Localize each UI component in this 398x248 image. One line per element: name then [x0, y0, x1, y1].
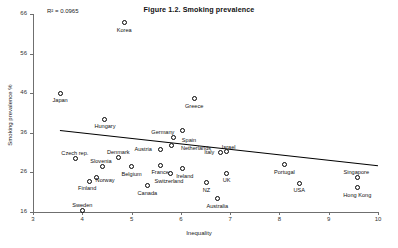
data-point-label: Greece [185, 103, 203, 109]
data-point-label: Hong Kong [343, 192, 371, 198]
data-point-label: Sweden [72, 202, 92, 208]
data-point[interactable] [204, 180, 209, 185]
chart-container: Figure 1.2. Smoking prevalence R² = 0.09… [0, 0, 398, 248]
data-point[interactable] [180, 128, 185, 133]
data-point-label: Canada [138, 190, 158, 196]
data-point[interactable] [73, 156, 78, 161]
x-tick-label: 9 [317, 216, 341, 222]
data-point-label: Belgium [121, 171, 141, 177]
data-point[interactable] [87, 179, 92, 184]
data-point-label: NZ [203, 187, 210, 193]
data-point-label: Japan [52, 97, 67, 103]
data-point[interactable] [80, 208, 85, 213]
data-point-label: Italy [204, 149, 214, 155]
data-point[interactable] [100, 164, 105, 169]
data-point-label: Norway [96, 177, 115, 183]
x-tick [329, 212, 330, 215]
x-tick-label: 6 [169, 216, 193, 222]
plot-area: 345678910162636465666KoreaJapanGreeceHun… [0, 0, 398, 248]
data-point-label: Australia [206, 203, 228, 209]
data-point[interactable] [58, 91, 63, 96]
data-point[interactable] [218, 150, 223, 155]
data-point-label: Singapore [344, 169, 370, 175]
data-point-label: France [151, 169, 168, 175]
data-point-label: Slovenia [90, 158, 111, 164]
data-point[interactable] [215, 196, 220, 201]
data-point-label: Switzerland [155, 178, 184, 184]
y-tick [30, 54, 33, 55]
data-point-label: Korea [117, 27, 132, 33]
data-point[interactable] [297, 181, 302, 186]
y-tick-label: 66 [5, 10, 27, 16]
x-tick [181, 212, 182, 215]
data-point[interactable] [355, 185, 360, 190]
x-tick-label: 10 [366, 216, 390, 222]
y-tick [30, 14, 33, 15]
data-point-label: Czech rep. [61, 150, 88, 156]
data-point[interactable] [158, 163, 163, 168]
data-point[interactable] [171, 135, 176, 140]
data-point-label: USA [293, 187, 305, 193]
data-point[interactable] [116, 155, 121, 160]
data-point[interactable] [224, 171, 229, 176]
data-point[interactable] [122, 20, 127, 25]
data-point[interactable] [168, 171, 173, 176]
data-point[interactable] [180, 166, 185, 171]
x-tick-label: 3 [21, 216, 45, 222]
x-tick [279, 212, 280, 215]
y-tick [30, 133, 33, 134]
data-point-label: Germany [151, 129, 174, 135]
data-point-label: Denmark [107, 149, 130, 155]
data-point-label: UK [223, 177, 231, 183]
x-tick [378, 212, 379, 215]
y-axis-line [33, 14, 34, 213]
data-point[interactable] [102, 117, 107, 122]
data-point-label: Finland [78, 185, 96, 191]
data-point[interactable] [355, 175, 360, 180]
x-tick [230, 212, 231, 215]
y-tick-label: 26 [5, 168, 27, 174]
y-tick-label: 56 [5, 50, 27, 56]
data-point[interactable] [129, 164, 134, 169]
x-tick [132, 212, 133, 215]
y-tick [30, 212, 33, 213]
data-point-label: Portugal [274, 169, 295, 175]
x-tick-label: 4 [70, 216, 94, 222]
data-point-label: Austria [134, 146, 151, 152]
data-point[interactable] [158, 147, 163, 152]
data-point-label: Spain [182, 137, 196, 143]
x-tick-label: 7 [218, 216, 242, 222]
y-axis-title: Smoking prevalence % [7, 77, 13, 153]
x-tick [33, 212, 34, 215]
x-tick-label: 5 [120, 216, 144, 222]
x-tick-label: 8 [267, 216, 291, 222]
x-axis-title: Inequality [0, 230, 398, 236]
x-axis-line [33, 212, 378, 213]
y-tick-label: 16 [5, 208, 27, 214]
data-point[interactable] [282, 162, 287, 167]
data-point-label: Israel [222, 144, 236, 150]
data-point[interactable] [145, 183, 150, 188]
data-point-label: Hungary [94, 123, 115, 129]
data-point[interactable] [169, 143, 174, 148]
data-point[interactable] [192, 96, 197, 101]
y-tick [30, 93, 33, 94]
y-tick [30, 172, 33, 173]
